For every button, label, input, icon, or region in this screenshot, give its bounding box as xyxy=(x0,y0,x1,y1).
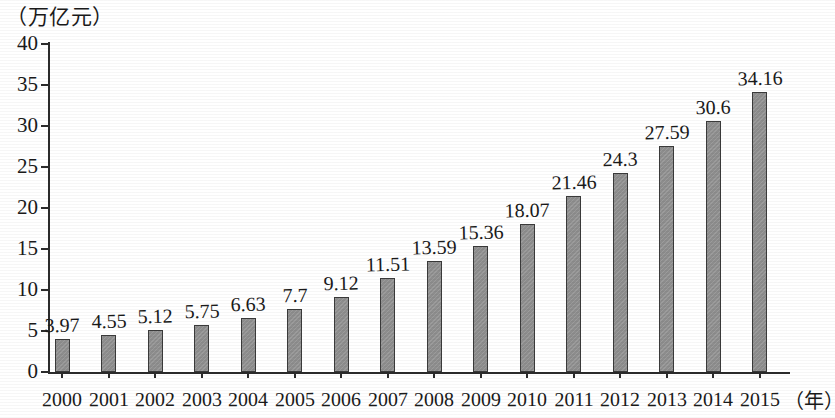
bar-value-label: 30.6 xyxy=(681,96,745,117)
y-axis-tick xyxy=(41,248,49,250)
y-axis-tick-label-wrap: 0 xyxy=(0,361,38,382)
x-axis-tick xyxy=(526,372,528,378)
x-axis-tick xyxy=(247,372,249,378)
y-axis-tick-label: 25 xyxy=(2,156,38,177)
bar xyxy=(194,325,209,372)
bar-chart: （万亿元） 4035302520151050 3.974.555.125.756… xyxy=(0,0,835,418)
x-axis-tick xyxy=(619,372,621,378)
bar-value-label: 21.46 xyxy=(541,171,605,192)
bar-value-label: 15.36 xyxy=(448,221,512,242)
x-axis-tick xyxy=(201,372,203,378)
y-axis-tick-label: 15 xyxy=(2,238,38,259)
y-axis-tick xyxy=(41,125,49,127)
bar xyxy=(148,330,163,372)
y-axis-tick-label-wrap: 25 xyxy=(0,156,38,177)
y-axis-tick xyxy=(41,207,49,209)
bar-value-label: 24.3 xyxy=(588,148,652,169)
x-axis-tick xyxy=(61,372,63,378)
y-axis-tick-label: 30 xyxy=(2,115,38,136)
y-axis-tick-label-wrap: 30 xyxy=(0,115,38,136)
x-axis-line xyxy=(48,372,790,374)
bar-value-label: 34.16 xyxy=(727,67,791,88)
y-axis-tick-label: 0 xyxy=(2,361,38,382)
bar xyxy=(520,224,535,372)
x-axis-tick xyxy=(154,372,156,378)
y-axis-tick-label: 10 xyxy=(2,279,38,300)
bar xyxy=(659,146,674,372)
y-axis-tick xyxy=(41,166,49,168)
y-axis-tick-label-wrap: 35 xyxy=(0,74,38,95)
bar xyxy=(706,121,721,372)
y-axis-tick xyxy=(41,371,49,373)
x-axis-unit-label: （年） xyxy=(784,389,835,413)
x-axis-tick xyxy=(666,372,668,378)
y-axis-tick xyxy=(41,43,49,45)
y-axis-tick-label: 40 xyxy=(2,33,38,54)
bar xyxy=(566,196,581,372)
y-axis-tick-label: 20 xyxy=(2,197,38,218)
bar xyxy=(473,246,488,372)
y-axis-tick-label-wrap: 15 xyxy=(0,238,38,259)
y-axis-tick xyxy=(41,84,49,86)
x-axis-tick xyxy=(340,372,342,378)
x-axis-label: 2015 xyxy=(731,388,787,410)
x-axis-tick xyxy=(712,372,714,378)
x-axis-tick xyxy=(433,372,435,378)
bar xyxy=(427,261,442,372)
bar-value-label: 18.07 xyxy=(495,199,559,220)
y-axis-unit-label: （万亿元） xyxy=(6,4,114,30)
bar xyxy=(613,173,628,372)
y-axis-tick-label-wrap: 40 xyxy=(0,33,38,54)
bar xyxy=(287,309,302,372)
bar xyxy=(334,297,349,372)
y-axis-tick-label: 35 xyxy=(2,74,38,95)
x-axis-tick xyxy=(759,372,761,378)
y-axis-tick-label-wrap: 10 xyxy=(0,279,38,300)
y-axis-tick xyxy=(41,289,49,291)
bar-value-label: 9.12 xyxy=(309,273,373,294)
bar xyxy=(380,278,395,372)
x-axis-tick xyxy=(294,372,296,378)
bar-value-label: 27.59 xyxy=(634,121,698,142)
x-axis-tick xyxy=(387,372,389,378)
x-axis-tick xyxy=(108,372,110,378)
bar xyxy=(241,318,256,372)
x-axis-tick xyxy=(573,372,575,378)
bar xyxy=(101,335,116,372)
bar xyxy=(752,92,767,372)
x-axis-tick xyxy=(480,372,482,378)
y-axis-tick-label-wrap: 20 xyxy=(0,197,38,218)
bar xyxy=(55,339,70,372)
